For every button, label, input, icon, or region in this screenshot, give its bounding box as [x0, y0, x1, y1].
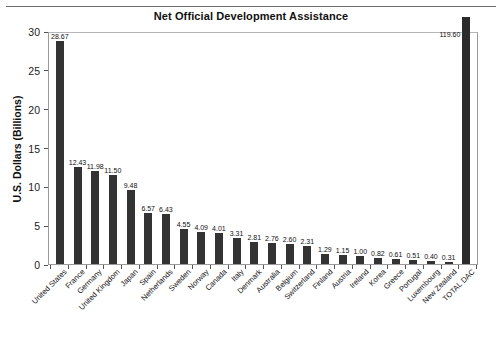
bar-value-label: 0.82	[371, 250, 385, 257]
y-tick-label: 5	[22, 220, 40, 232]
bar-slot: 9.48	[122, 33, 140, 264]
y-tick-30: 30	[22, 26, 48, 38]
y-tick-mark	[44, 187, 48, 188]
bar-netherlands[interactable]: 6.43	[162, 214, 170, 264]
x-axis-labels: United StatesFranceGermanyUnited Kingdom…	[48, 268, 478, 330]
bar-slot: 0.31	[440, 33, 458, 264]
bar-korea[interactable]: 0.82	[374, 258, 382, 264]
bar-slot: 1.15	[334, 33, 352, 264]
bar-value-label: 6.43	[159, 206, 173, 213]
bar-slot: 6.57	[139, 33, 157, 264]
x-label-united-states: United States	[31, 268, 69, 306]
y-tick-mark	[44, 226, 48, 227]
y-tick-label: 20	[22, 104, 40, 116]
bar-slot: 1.29	[316, 33, 334, 264]
bar-canada[interactable]: 4.01	[215, 233, 223, 264]
bar-slot: 2.76	[263, 33, 281, 264]
bar-value-label: 11.50	[104, 167, 121, 174]
bar-value-label: 2.81	[247, 234, 261, 241]
x-label-text: United States	[31, 268, 69, 306]
y-tick-label: 0	[22, 259, 40, 271]
bar-value-label: 1.00	[353, 248, 367, 255]
bar-slot: 1.00	[351, 33, 369, 264]
bar-spain[interactable]: 6.57	[144, 213, 152, 264]
bar-slot: 12.43	[69, 33, 87, 264]
bar-france[interactable]: 12.43	[74, 167, 82, 264]
bar-finland[interactable]: 1.29	[321, 254, 329, 264]
bar-slot: 0.51	[404, 33, 422, 264]
y-tick-25: 25	[22, 65, 48, 77]
y-tick-mark	[44, 32, 48, 33]
bar-slot: 11.50	[104, 33, 122, 264]
plot-area: 28.6712.4311.9811.509.486.576.434.554.09…	[48, 32, 478, 265]
y-tick-label: 30	[22, 26, 40, 38]
y-tick-5: 5	[22, 220, 48, 232]
y-tick-0: 0	[22, 259, 48, 271]
bar-value-label: 6.57	[141, 205, 155, 212]
page-top-rule	[6, 6, 496, 7]
bar-value-label: 1.15	[336, 247, 350, 254]
bar-greece[interactable]: 0.61	[392, 259, 400, 264]
y-tick-label: 15	[22, 143, 40, 155]
bar-norway[interactable]: 4.09	[197, 232, 205, 264]
y-axis: U.S. Dollars (Billions) 051015202530	[0, 32, 48, 265]
bar-slot: 0.40	[422, 33, 440, 264]
bar-slot: 2.81	[245, 33, 263, 264]
bar-value-label: 119.60	[439, 31, 460, 38]
bar-slot: 6.43	[157, 33, 175, 264]
y-tick-20: 20	[22, 104, 48, 116]
bar-sweden[interactable]: 4.55	[180, 229, 188, 264]
bar-value-label: 2.60	[283, 236, 297, 243]
bar-value-label: 28.67	[51, 33, 69, 40]
bar-slot: 119.60	[457, 33, 475, 264]
figure-container: Net Official Development Assistance 28.6…	[0, 0, 502, 347]
bar-total-dac[interactable]: 119.60	[462, 17, 470, 264]
bar-italy[interactable]: 3.31	[233, 238, 241, 264]
bar-value-label: 4.09	[194, 224, 208, 231]
y-tick-mark	[44, 148, 48, 149]
bar-value-label: 2.31	[300, 238, 314, 245]
bar-united-states[interactable]: 28.67	[56, 41, 64, 264]
y-tick-label: 10	[22, 181, 40, 193]
bar-luxembourg[interactable]: 0.40	[427, 261, 435, 264]
bar-denmark[interactable]: 2.81	[250, 242, 258, 264]
bar-value-label: 1.29	[318, 246, 332, 253]
bar-series: 28.6712.4311.9811.509.486.576.434.554.09…	[49, 33, 477, 264]
bar-japan[interactable]: 9.48	[127, 190, 135, 264]
x-label-text: Japan	[119, 268, 139, 288]
bar-value-label: 4.01	[212, 225, 226, 232]
y-tick-10: 10	[22, 181, 48, 193]
bar-slot: 4.01	[210, 33, 228, 264]
y-tick-mark	[44, 109, 48, 110]
y-tick-mark	[44, 70, 48, 71]
bar-value-label: 0.61	[389, 251, 403, 258]
bar-slot: 0.61	[387, 33, 405, 264]
y-tick-15: 15	[22, 143, 48, 155]
y-tick-label: 25	[22, 65, 40, 77]
bar-slot: 0.82	[369, 33, 387, 264]
bar-slot: 11.98	[86, 33, 104, 264]
bar-slot: 2.31	[298, 33, 316, 264]
bar-ireland[interactable]: 1.00	[356, 256, 364, 264]
x-label-japan: Japan	[119, 268, 139, 288]
bar-belgium[interactable]: 2.60	[286, 244, 294, 264]
bar-slot: 28.67	[51, 33, 69, 264]
bar-value-label: 12.43	[69, 159, 87, 166]
bar-portugal[interactable]: 0.51	[409, 260, 417, 264]
bar-slot: 3.31	[228, 33, 246, 264]
bar-value-label: 4.55	[177, 221, 191, 228]
bar-germany[interactable]: 11.98	[91, 171, 99, 264]
bar-value-label: 2.76	[265, 235, 279, 242]
bar-slot: 4.09	[192, 33, 210, 264]
bar-slot: 2.60	[281, 33, 299, 264]
x-label-text: Austria	[330, 268, 352, 290]
bar-value-label: 9.48	[124, 182, 138, 189]
bar-slot: 4.55	[175, 33, 193, 264]
bar-austria[interactable]: 1.15	[339, 255, 347, 264]
bar-switzerland[interactable]: 2.31	[303, 246, 311, 264]
bar-new-zealand[interactable]: 0.31	[445, 262, 453, 264]
bar-australia[interactable]: 2.76	[268, 243, 276, 264]
bar-value-label: 3.31	[230, 230, 244, 237]
bar-united-kingdom[interactable]: 11.50	[109, 175, 117, 264]
bar-value-label: 11.98	[87, 163, 104, 170]
